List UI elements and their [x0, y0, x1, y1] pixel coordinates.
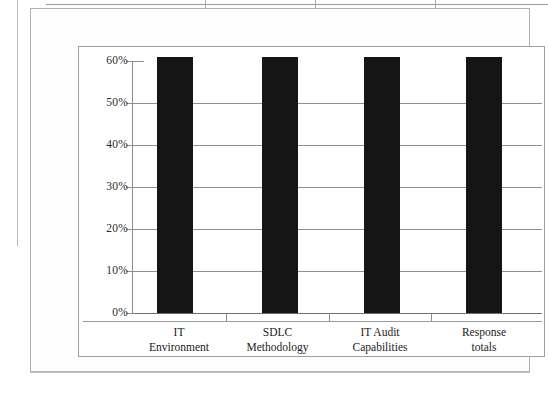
x-axis-label-line-2: totals	[431, 340, 537, 355]
category-separator-3	[431, 313, 432, 321]
category-separator-1	[226, 313, 227, 321]
page-bottom-rule	[30, 372, 530, 373]
bar-series-response-percentage	[79, 47, 546, 358]
x-axis-label-line-1: SDLC	[226, 325, 329, 340]
chart-plot-frame: 60% 50% 40% 30% 20% 10% 0% IT Environme	[78, 46, 545, 357]
x-axis-label-line-1: Response	[431, 325, 537, 340]
x-axis-label-line-2: Environment	[132, 340, 226, 355]
bar-it-audit-capabilities	[364, 57, 400, 313]
category-band-rule	[83, 321, 542, 322]
x-axis-label-it-environment: IT Environment	[132, 325, 226, 354]
x-axis-label-sdlc-methodology: SDLC Methodology	[226, 325, 329, 354]
x-axis-label-line-2: Capabilities	[329, 340, 431, 355]
bar-sdlc-methodology	[262, 57, 298, 313]
category-separator-2	[329, 313, 330, 321]
x-axis-label-line-1: IT	[132, 325, 226, 340]
page-left-margin-rule	[17, 0, 18, 246]
bar-response-totals	[466, 57, 502, 313]
x-axis-label-it-audit-capabilities: IT Audit Capabilities	[329, 325, 431, 354]
figure-outer-frame: 60% 50% 40% 30% 20% 10% 0% IT Environme	[30, 8, 530, 372]
x-axis-label-response-totals: Response totals	[431, 325, 537, 354]
page-table-top-rule	[46, 4, 548, 5]
x-axis-label-line-1: IT Audit	[329, 325, 431, 340]
x-axis-label-line-2: Methodology	[226, 340, 329, 355]
bar-it-environment	[157, 57, 193, 313]
bar-chart: 60% 50% 40% 30% 20% 10% 0% IT Environme	[79, 47, 546, 358]
